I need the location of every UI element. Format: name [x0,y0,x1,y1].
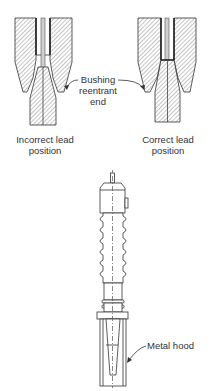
callout-line: end [76,96,120,107]
bushing-wall-left [15,18,36,92]
incorrect-lead-drawing [15,18,72,125]
callout-bushing-reentrant-end: Bushing reentrant end [76,74,120,107]
insulator-sheds [100,213,126,283]
conductor [41,18,45,68]
callout-metal-hood: Metal hood [147,340,194,351]
cap-tab [125,198,128,208]
bushing-diagram [0,0,213,391]
caption-line: Incorrect lead [4,134,86,145]
lower-shank [104,283,122,300]
bushing-wall-right [50,18,72,92]
metal-hood-leader [127,346,146,363]
callout-line: reentrant [76,85,120,96]
callout-line: Bushing [76,74,120,85]
caption-line: position [4,145,86,156]
caption-line: position [127,145,209,156]
correct-lead-drawing [138,18,196,122]
caption-line: Correct lead [127,134,209,145]
conductor [165,18,169,60]
caption-correct: Correct lead position [127,134,209,156]
caption-incorrect: Incorrect lead position [4,134,86,156]
collar-ring [102,300,124,303]
